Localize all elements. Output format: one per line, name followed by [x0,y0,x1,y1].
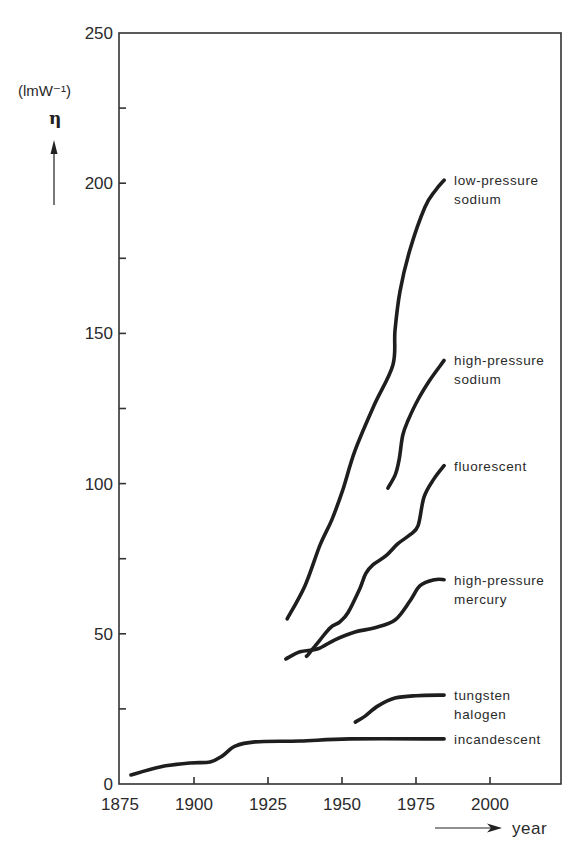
x-tick-label: 1875 [101,795,139,814]
x-axis-arrow-icon [435,824,502,833]
series-label-low-pressure-sodium: sodium [454,192,501,207]
series-label-incandescent: incandescent [454,732,541,747]
y-tick-label: 50 [94,625,113,644]
x-tick-label: 1950 [323,795,361,814]
x-axis-label: year [512,819,547,838]
x-axis: 187519001925195019752000 [101,777,509,814]
x-tick-label: 1900 [175,795,213,814]
x-tick-label: 2000 [471,795,509,814]
y-tick-label: 250 [85,24,113,43]
curve-low-pressure-sodium [287,180,444,619]
series-label-low-pressure-sodium: low-pressure [454,173,538,188]
y-tick-label: 200 [85,174,113,193]
series-label-high-pressure-sodium: sodium [454,372,501,387]
y-axis-symbol: η [49,108,61,128]
series-label-high-pressure-sodium: high-pressure [454,353,544,368]
series-label-high-pressure-mercury: high-pressure [454,573,544,588]
plot-frame [119,33,561,784]
series-curves [131,180,444,775]
series-label-high-pressure-mercury: mercury [454,592,507,607]
series-label-tungsten-halogen: tungsten [454,688,511,703]
y-tick-label: 150 [85,324,113,343]
series-label-tungsten-halogen: halogen [454,707,506,722]
curve-tungsten-halogen [355,695,444,722]
curve-incandescent [131,739,444,775]
series-labels: low-pressuresodiumhigh-pressuresodiumflu… [454,173,544,747]
y-axis-arrow-icon [51,140,58,205]
y-axis-unit: (lmW⁻¹) [18,82,71,99]
series-label-fluorescent: fluorescent [454,459,527,474]
curve-high-pressure-mercury [286,579,444,659]
x-tick-label: 1925 [249,795,287,814]
x-tick-label: 1975 [397,795,435,814]
y-tick-label: 0 [104,775,113,794]
y-tick-label: 100 [85,475,113,494]
efficacy-chart: 050100150200250 187519001925195019752000… [0,0,587,860]
curve-high-pressure-sodium [388,360,444,488]
